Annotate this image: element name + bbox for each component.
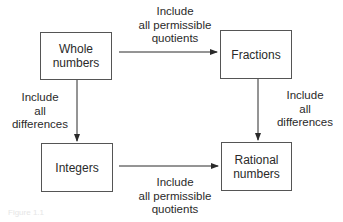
node-rational-numbers-line1: Rational: [233, 153, 280, 167]
number-systems-diagram: Whole numbers Fractions Integers Rationa…: [0, 0, 343, 222]
edge-label-line: quotients: [115, 32, 235, 46]
edge-label-line: quotients: [115, 203, 235, 217]
node-rational-numbers-line2: numbers: [233, 167, 280, 181]
node-integers-label: Integers: [55, 161, 98, 175]
edge-label-line: all permissible: [115, 19, 235, 33]
node-fractions-label: Fractions: [231, 48, 280, 62]
figure-caption: Figure 1.1: [8, 208, 44, 217]
edge-label-integers-to-rational: Include all permissible quotients: [115, 176, 235, 217]
node-whole-numbers-line1: Whole: [53, 42, 100, 56]
edge-label-fractions-to-rational: Include all differences: [272, 89, 338, 130]
edge-label-line: all: [8, 105, 72, 119]
edge-label-line: all: [272, 103, 338, 117]
node-integers: Integers: [41, 143, 113, 192]
edge-label-whole-to-fractions: Include all permissible quotients: [115, 5, 235, 46]
edge-label-whole-to-integers: Include all differences: [8, 91, 72, 132]
edge-label-line: differences: [8, 118, 72, 132]
edge-label-line: Include: [272, 89, 338, 103]
edge-label-line: all permissible: [115, 190, 235, 204]
node-whole-numbers: Whole numbers: [40, 32, 112, 80]
edge-label-line: Include: [115, 5, 235, 19]
node-whole-numbers-line2: numbers: [53, 56, 100, 70]
edge-label-line: Include: [115, 176, 235, 190]
edge-label-line: differences: [272, 116, 338, 130]
edge-label-line: Include: [8, 91, 72, 105]
